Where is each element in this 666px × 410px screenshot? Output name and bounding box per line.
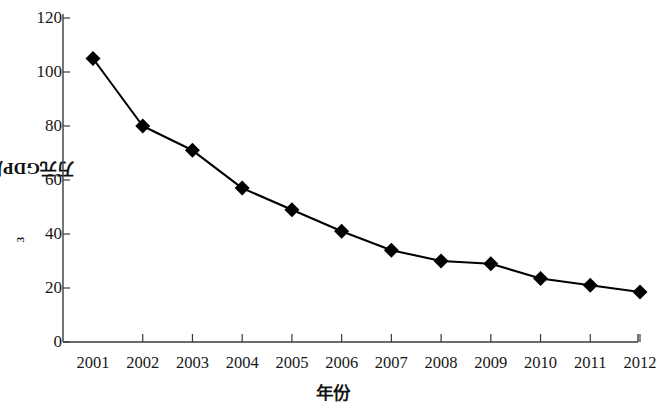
axis-lines (63, 14, 638, 342)
data-point-marker (633, 285, 648, 300)
data-point-marker (135, 119, 150, 134)
data-point-marker (583, 278, 598, 293)
line-chart: 万元GDP用水量/米3 020406080100120 200120022003… (0, 0, 666, 410)
data-point-marker (434, 254, 449, 269)
data-point-marker (483, 256, 498, 271)
data-point-marker (284, 202, 299, 217)
plot-area (0, 0, 666, 410)
data-point-marker (334, 224, 349, 239)
data-series-line (93, 59, 640, 293)
x-axis-ticks (143, 334, 640, 342)
data-point-marker (533, 271, 548, 286)
data-point-marker (384, 243, 399, 258)
data-point-marker (86, 51, 101, 66)
y-axis-ticks (63, 18, 70, 342)
data-series-markers (86, 51, 648, 300)
